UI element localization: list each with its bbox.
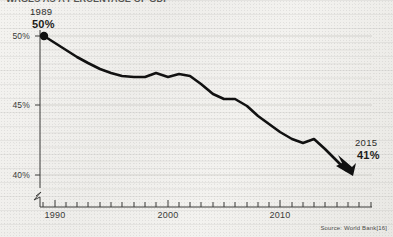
annotation-end-value: 41%: [357, 149, 380, 161]
start-point-marker: [40, 32, 48, 40]
x-tick-label-1990: 1990: [35, 210, 75, 220]
x-tick-label-2010: 2010: [260, 210, 300, 220]
data-line-wage-share: [44, 36, 346, 170]
line-chart: [0, 0, 393, 237]
gridlines: [40, 36, 372, 189]
y-axis: [35, 30, 40, 188]
source-note: Source: World Bank[16]: [320, 225, 387, 231]
y-tick-label-50: 50%: [4, 31, 30, 41]
x-axis: [40, 200, 372, 207]
annotation-start-year: 1989: [30, 6, 52, 17]
end-arrowhead-marker: [336, 155, 356, 176]
x-tick-label-2000: 2000: [148, 210, 188, 220]
y-tick-label-45: 45%: [4, 100, 30, 110]
y-tick-label-40: 40%: [4, 170, 30, 180]
annotation-start-value: 50%: [32, 18, 55, 30]
y-axis-break-icon: [34, 192, 41, 207]
annotation-end-year: 2015: [355, 137, 377, 148]
